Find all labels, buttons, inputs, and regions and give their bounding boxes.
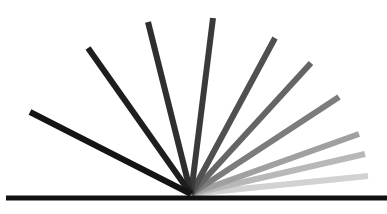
ray-line xyxy=(30,112,191,194)
fan-diagram xyxy=(0,0,387,214)
